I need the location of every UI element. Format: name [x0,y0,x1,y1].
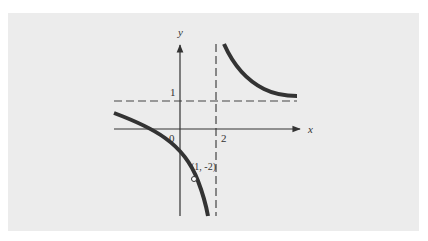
graph: y x 0 2 1 (1, -2) [0,0,428,241]
curve-right-branch [224,44,297,96]
point-marker [192,177,197,182]
x-tick-label-2: 2 [221,132,227,144]
origin-label: 0 [169,132,175,144]
x-axis-label: x [307,123,313,135]
y-tick-label-1: 1 [170,86,176,98]
y-axis-label: y [177,26,183,38]
point-label: (1, -2) [191,161,216,173]
